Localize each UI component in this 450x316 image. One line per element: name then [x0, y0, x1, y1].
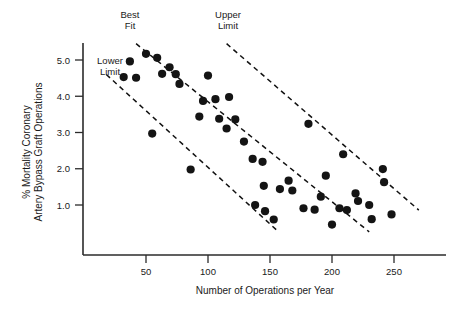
data-point: [270, 215, 278, 223]
data-point: [132, 74, 140, 82]
data-points: [120, 50, 396, 229]
data-point: [249, 155, 257, 163]
data-point: [311, 206, 319, 214]
data-point: [387, 210, 395, 218]
data-point: [261, 207, 269, 215]
data-point: [328, 220, 336, 228]
y-axis-tick-label: 1.0: [57, 200, 70, 211]
data-point: [153, 54, 161, 62]
tick-labels: 1.02.03.04.05.050100150200250: [57, 55, 402, 278]
x-axis-tick-label: 50: [141, 266, 152, 277]
annotation-upper-limit: UpperLimit: [215, 9, 241, 31]
y-axis-tick-label: 3.0: [57, 127, 70, 138]
data-point: [354, 197, 362, 205]
data-point: [322, 172, 330, 180]
x-axis-title: Number of Operations per Year: [196, 285, 335, 296]
data-point: [215, 115, 223, 123]
data-point: [276, 185, 284, 193]
annotation-label-line1: Best: [120, 9, 139, 20]
data-point: [165, 63, 173, 71]
x-axis-tick-label: 150: [262, 266, 278, 277]
trend-line-upper-limit: [227, 44, 419, 210]
scatter-chart-figure: 1.02.03.04.05.050100150200250 BestFitUpp…: [0, 0, 450, 316]
data-point: [251, 201, 259, 209]
data-point: [231, 115, 239, 123]
data-point: [343, 206, 351, 214]
annotation-best-fit: BestFit: [120, 9, 139, 31]
axes: [75, 43, 446, 263]
y-axis-title-line2: Artery Bypass Graft Operations: [33, 83, 44, 222]
data-point: [120, 73, 128, 81]
data-point: [285, 177, 293, 185]
data-point: [304, 120, 312, 128]
chart-canvas: 1.02.03.04.05.050100150200250 BestFitUpp…: [0, 0, 450, 316]
annotation-label-line2: Limit: [100, 66, 120, 77]
data-point: [126, 57, 134, 65]
annotation-label-line1: Lower: [97, 55, 123, 66]
data-point: [335, 204, 343, 212]
data-point: [225, 93, 233, 101]
data-point: [158, 70, 166, 78]
y-axis-title-line1: % Mortality Coronary: [21, 105, 32, 198]
data-point: [351, 189, 359, 197]
data-point: [380, 178, 388, 186]
data-point: [142, 50, 150, 58]
data-point: [187, 165, 195, 173]
y-axis-tick-label: 4.0: [57, 91, 70, 102]
data-point: [240, 137, 248, 145]
data-point: [317, 193, 325, 201]
data-point: [365, 201, 373, 209]
data-point: [175, 80, 183, 88]
x-axis-tick-label: 250: [386, 266, 402, 277]
data-point: [172, 70, 180, 78]
data-point: [288, 186, 296, 194]
data-point: [148, 129, 156, 137]
data-point: [204, 71, 212, 79]
data-point: [299, 204, 307, 212]
x-axis-tick-label: 200: [324, 266, 340, 277]
axis-titles: Number of Operations per Year% Mortality…: [21, 83, 335, 296]
data-point: [260, 182, 268, 190]
annotation-label-line2: Limit: [218, 20, 238, 31]
y-axis-tick-label: 2.0: [57, 163, 70, 174]
data-point: [339, 150, 347, 158]
data-point: [368, 215, 376, 223]
annotation-label-line2: Fit: [125, 20, 136, 31]
y-axis-tick-label: 5.0: [57, 55, 70, 66]
x-axis-tick-label: 100: [200, 266, 216, 277]
data-point: [211, 95, 219, 103]
data-point: [258, 158, 266, 166]
annotation-label-line1: Upper: [215, 9, 241, 20]
data-point: [195, 112, 203, 120]
trend-line-lower-limit: [106, 75, 276, 230]
annotation-lower-limit: LowerLimit: [97, 55, 123, 77]
data-point: [379, 165, 387, 173]
data-point: [199, 97, 207, 105]
data-point: [223, 124, 231, 132]
